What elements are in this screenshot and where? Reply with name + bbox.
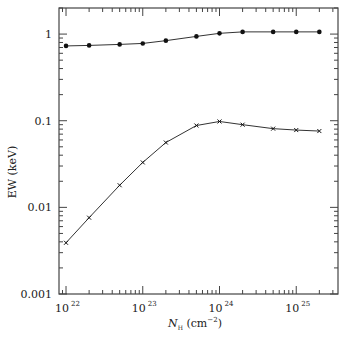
x-tick-label: 10: [285, 302, 299, 315]
x-tick-exponent: 25: [301, 300, 310, 308]
data-point: [87, 216, 91, 220]
data-point: [317, 30, 322, 35]
data-point: [64, 44, 69, 49]
x-tick-label: 10: [209, 302, 223, 315]
data-point: [164, 38, 169, 43]
x-tick-label: 10: [132, 302, 146, 315]
series-upper: [64, 30, 322, 49]
data-point: [240, 30, 245, 35]
data-point: [271, 30, 276, 35]
data-point: [141, 160, 145, 164]
y-tick-label: 1: [45, 28, 52, 41]
tick-labels: 10.10.010.0011022102310241025: [21, 28, 311, 315]
x-tick-exponent: 24: [225, 300, 234, 308]
data-point: [87, 43, 92, 48]
y-axis-title: EW (keV): [6, 146, 19, 199]
x-tick-label: 10: [55, 302, 69, 315]
x-axis-title: NH (cm−2): [167, 316, 222, 331]
plot-border: [59, 8, 338, 294]
x-tick-exponent: 23: [148, 300, 157, 308]
chart: 10.10.010.0011022102310241025 EW (keV) N…: [0, 0, 351, 340]
tick-marks: [59, 8, 338, 294]
y-tick-label: 0.1: [35, 115, 53, 128]
y-tick-label: 0.01: [28, 201, 53, 214]
series-lower: [64, 119, 321, 244]
data-point: [118, 183, 122, 187]
x-tick-exponent: 22: [71, 300, 80, 308]
plot-frame: [59, 8, 338, 294]
data-point: [117, 42, 122, 47]
data-point: [140, 41, 145, 46]
data-point: [294, 30, 299, 35]
data-point: [64, 241, 68, 245]
data-series: [64, 30, 322, 245]
data-point: [194, 34, 199, 39]
data-point: [164, 141, 168, 145]
y-tick-label: 0.001: [21, 288, 53, 301]
data-point: [217, 31, 222, 36]
